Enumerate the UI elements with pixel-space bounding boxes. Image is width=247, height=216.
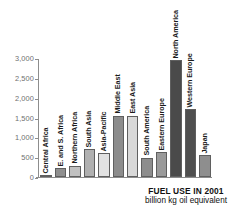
bar-group: Central Africa: [40, 58, 52, 177]
bar-category-label: Middle East: [114, 75, 122, 114]
bar-group: Middle East: [113, 58, 125, 177]
bar-category-label: South Asia: [85, 111, 93, 148]
y-tick-mark: [35, 138, 38, 139]
bar-category-label: Japan: [201, 133, 209, 154]
bar: [84, 149, 96, 177]
chart-title: FUEL USE IN 2001: [128, 186, 244, 196]
y-tick-label: 2,500: [0, 75, 34, 83]
bar-category-label: South America: [143, 106, 151, 156]
bar-category-label: North America: [172, 10, 180, 59]
bar-category-label: Western Europe: [186, 53, 194, 107]
bar: [156, 152, 168, 177]
bar-group: Asia-Pacific: [98, 58, 110, 177]
bar-category-label: Central Africa: [42, 128, 50, 174]
bar: [98, 153, 110, 177]
bar-category-label: East Asia: [129, 82, 137, 114]
y-tick-label: 500: [0, 154, 34, 162]
y-tick-label: 1,500: [0, 115, 34, 123]
bar-category-label: Eastern Europe: [158, 98, 166, 150]
bar-category-label: E. and S. Africa: [57, 115, 65, 167]
y-axis-tick-labels: 3,0002,5002,0001,5001,0005000: [0, 54, 34, 182]
plot-area: Central AfricaE. and S. AfricaNorthern A…: [39, 58, 212, 177]
bar: [40, 175, 52, 177]
y-tick-label: 0: [0, 174, 34, 182]
bar-category-label: Asia-Pacific: [100, 111, 108, 151]
chart-caption: FUEL USE IN 2001 billion kg oil equivale…: [128, 186, 244, 206]
bar: [199, 155, 211, 177]
bar-group: E. and S. Africa: [55, 58, 67, 177]
y-tick-mark: [35, 59, 38, 60]
bar-group: Japan: [199, 58, 211, 177]
x-axis-baseline: [36, 177, 212, 178]
y-tick-label: 1,000: [0, 134, 34, 142]
chart-subtitle: billion kg oil equivalent: [128, 196, 244, 206]
bar: [127, 116, 139, 177]
fuel-use-bar-chart: 3,0002,5002,0001,5001,0005000 Central Af…: [0, 0, 247, 216]
y-tick-mark: [35, 178, 38, 179]
y-tick-label: 2,000: [0, 95, 34, 103]
bar: [69, 166, 81, 178]
y-tick-mark: [35, 158, 38, 159]
bar-group: Western Europe: [185, 58, 197, 177]
bar: [170, 60, 182, 177]
y-tick-label: 3,000: [0, 55, 34, 63]
bar-group: East Asia: [127, 58, 139, 177]
y-tick-mark: [35, 119, 38, 120]
bar: [55, 168, 67, 177]
y-tick-mark: [35, 99, 38, 100]
bar-group: North America: [170, 58, 182, 177]
bar-category-label: Northern Africa: [71, 112, 79, 164]
bar: [113, 116, 125, 177]
bar-group: South America: [141, 58, 153, 177]
bar-group: Northern Africa: [69, 58, 81, 177]
bar-group: Eastern Europe: [156, 58, 168, 177]
bar-group: South Asia: [84, 58, 96, 177]
bar: [185, 109, 197, 177]
bar: [141, 158, 153, 177]
y-tick-mark: [35, 79, 38, 80]
